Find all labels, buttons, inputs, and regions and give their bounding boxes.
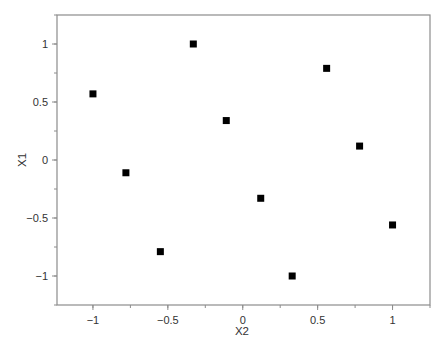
x-tick-label: −1	[87, 314, 100, 326]
data-point-marker	[157, 248, 164, 255]
y-tick-label: −0.5	[26, 212, 48, 224]
x-tick-label: 0.5	[310, 314, 325, 326]
x-tick-label: −0.5	[157, 314, 179, 326]
y-axis-ticks: 10.50−0.5−1	[26, 15, 57, 305]
y-tick-label: 0	[42, 154, 48, 166]
y-tick-label: −1	[35, 270, 48, 282]
x-tick-label: 1	[389, 314, 395, 326]
data-point-marker	[223, 117, 230, 124]
x-axis-label: X2	[235, 325, 249, 337]
scatter-chart: −1−0.500.51 10.50−0.5−1 X2 X1	[0, 0, 448, 351]
data-points	[89, 41, 396, 280]
plot-frame	[57, 15, 430, 305]
data-point-marker	[389, 221, 396, 228]
data-point-marker	[257, 195, 264, 202]
data-point-marker	[122, 169, 129, 176]
data-point-marker	[323, 65, 330, 72]
data-point-marker	[89, 90, 96, 97]
data-point-marker	[289, 273, 296, 280]
y-axis-label: X1	[16, 153, 28, 167]
y-tick-label: 1	[42, 38, 48, 50]
data-point-marker	[356, 143, 363, 150]
x-axis-ticks: −1−0.500.51	[87, 305, 430, 326]
plot-border	[57, 15, 430, 305]
data-point-marker	[190, 41, 197, 48]
y-tick-label: 0.5	[33, 96, 48, 108]
